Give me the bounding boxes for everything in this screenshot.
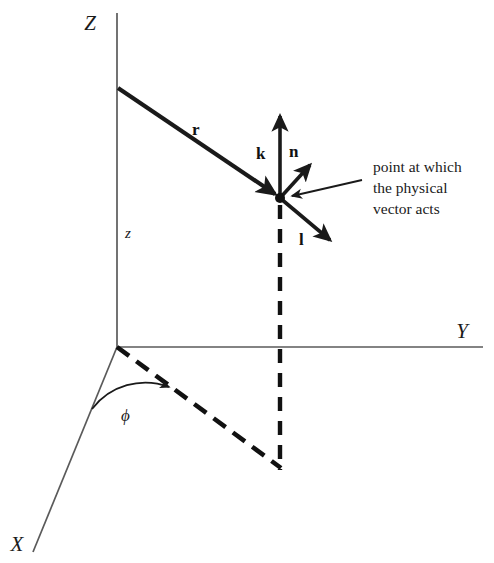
phi-arc [92, 383, 169, 409]
annotation-pointer-arrow [292, 180, 362, 196]
z-height-label: z [124, 225, 131, 241]
projection-line-xy-plane [117, 347, 281, 468]
position-vector-r [118, 88, 275, 194]
vector-diagram-svg: Z Y X z ϕ r k n l point at which [0, 0, 494, 563]
unit-vector-l [280, 198, 330, 240]
annotation-line-3: vector acts [373, 200, 440, 217]
y-axis-label: Y [456, 319, 470, 343]
point-description-annotation: point at which the physical vector acts [373, 158, 462, 217]
unit-vector-l-label: l [299, 230, 304, 249]
x-axis-line [33, 347, 117, 552]
z-axis-label: Z [84, 11, 96, 35]
vector-application-point [275, 193, 285, 203]
annotation-line-1: point at which [373, 158, 462, 175]
position-vector-r-label: r [192, 120, 200, 139]
unit-vector-n-label: n [289, 142, 299, 161]
unit-vector-k-label: k [256, 144, 266, 163]
dashed-lines-group [117, 205, 281, 470]
phi-angle-label: ϕ [121, 406, 130, 425]
diagram-canvas: Z Y X z ϕ r k n l point at which [0, 0, 494, 563]
x-axis-label: X [10, 532, 25, 556]
annotation-line-2: the physical [373, 179, 447, 196]
axes-group [33, 13, 483, 552]
